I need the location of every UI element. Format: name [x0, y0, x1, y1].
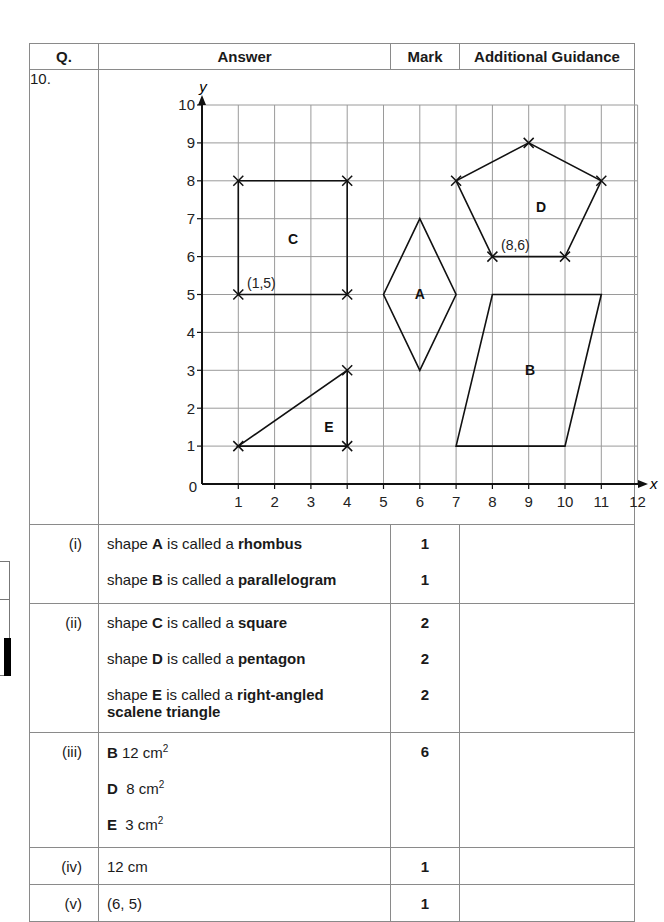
svg-text:7: 7	[452, 493, 460, 510]
answer-cell: 12 cm	[99, 848, 391, 885]
answer-row-ii: (ii) shape C is called a square shape D …	[30, 604, 635, 733]
svg-text:2: 2	[270, 493, 278, 510]
graph-row: 10.	[30, 70, 635, 525]
svg-text:5: 5	[379, 493, 387, 510]
sub-label: (v)	[30, 885, 99, 922]
svg-text:0: 0	[189, 478, 197, 495]
svg-text:4: 4	[343, 493, 351, 510]
x-axis-label: x	[649, 475, 658, 492]
svg-text:3: 3	[307, 493, 315, 510]
guidance-cell	[460, 885, 635, 922]
point-annotation-8-6: (8,6)	[501, 237, 530, 253]
margin-tick	[0, 599, 10, 600]
svg-text:8: 8	[187, 172, 195, 189]
sub-label: (iii)	[30, 733, 99, 848]
answer-row-iv: (iv) 12 cm 1	[30, 848, 635, 885]
y-axis-arrow-icon	[198, 95, 206, 105]
svg-text:7: 7	[187, 210, 195, 227]
answer-cell: shape A is called a rhombus shape B is c…	[99, 525, 391, 604]
svg-text:5: 5	[187, 286, 195, 303]
header-guidance: Additional Guidance	[460, 44, 635, 70]
question-number: 10.	[30, 70, 99, 525]
svg-text:9: 9	[187, 134, 195, 151]
shape-label-c: C	[288, 231, 298, 247]
svg-text:6: 6	[416, 493, 424, 510]
answer-line: shape E is called a right-angled scalene…	[99, 676, 327, 728]
answer-row-iii: (iii) B 12 cm2 D 8 cm2 E 3 cm2 6	[30, 733, 635, 848]
answer-cell: (6, 5)	[99, 885, 391, 922]
answer-cell: shape C is called a square shape D is ca…	[99, 604, 391, 733]
shape-label-b: B	[525, 362, 535, 378]
answer-line: shape B is called a parallelogram	[99, 561, 390, 597]
answer-row-v: (v) (6, 5) 1	[30, 885, 635, 922]
graph-cell: 10 9 8 7 6 5 4 3 2 1 0 1 2	[99, 70, 635, 525]
svg-text:1: 1	[234, 493, 242, 510]
svg-text:1: 1	[187, 437, 195, 454]
guidance-cell	[460, 604, 635, 733]
mark-cell: 1 1	[391, 525, 460, 604]
mark-cell: 6	[391, 733, 460, 848]
guidance-cell	[460, 525, 635, 604]
x-tick-labels: 1 2 3 4 5 6 7 8 9 10 11 12	[234, 493, 646, 510]
shape-label-d: D	[536, 199, 546, 215]
answer-line: D 8 cm2	[99, 769, 390, 805]
svg-text:11: 11	[594, 493, 610, 510]
mark-cell: 1	[391, 848, 460, 885]
margin-black-bar	[4, 638, 11, 676]
x-axis-arrow-icon	[638, 480, 648, 488]
svg-text:10: 10	[178, 96, 195, 113]
guidance-cell	[460, 848, 635, 885]
svg-text:8: 8	[488, 493, 496, 510]
header-mark: Mark	[391, 44, 460, 70]
margin-marker	[0, 561, 10, 676]
answer-row-i: (i) shape A is called a rhombus shape B …	[30, 525, 635, 604]
answer-line: E 3 cm2	[99, 805, 390, 841]
svg-text:4: 4	[187, 324, 195, 341]
mark-scheme-table: Q. Answer Mark Additional Guidance 10.	[29, 43, 635, 922]
coordinate-grid-chart: 10 9 8 7 6 5 4 3 2 1 0 1 2	[99, 70, 664, 524]
guidance-cell	[460, 733, 635, 848]
sub-label: (ii)	[30, 604, 99, 733]
shape-label-a: A	[415, 286, 425, 302]
answer-line: B 12 cm2	[99, 733, 390, 769]
header-answer: Answer	[99, 44, 391, 70]
svg-text:6: 6	[187, 248, 195, 265]
y-tick-labels: 10 9 8 7 6 5 4 3 2 1 0	[178, 96, 197, 495]
svg-text:10: 10	[557, 493, 574, 510]
mark-cell: 1	[391, 885, 460, 922]
shape-label-e: E	[324, 419, 333, 435]
answer-line: shape C is called a square	[99, 604, 390, 640]
svg-text:2: 2	[187, 400, 195, 417]
mark-cell: 2 2 2	[391, 604, 460, 733]
svg-text:12: 12	[629, 493, 646, 510]
answer-cell: B 12 cm2 D 8 cm2 E 3 cm2	[99, 733, 391, 848]
svg-text:9: 9	[525, 493, 533, 510]
header-q: Q.	[30, 44, 99, 70]
y-axis-label: y	[198, 78, 208, 95]
answer-line: shape D is called a pentagon	[99, 640, 390, 676]
svg-text:3: 3	[187, 362, 195, 379]
header-row: Q. Answer Mark Additional Guidance	[30, 44, 635, 70]
point-annotation-1-5: (1,5)	[247, 275, 276, 291]
answer-line: shape A is called a rhombus	[99, 525, 390, 561]
sub-label: (i)	[30, 525, 99, 604]
sub-label: (iv)	[30, 848, 99, 885]
